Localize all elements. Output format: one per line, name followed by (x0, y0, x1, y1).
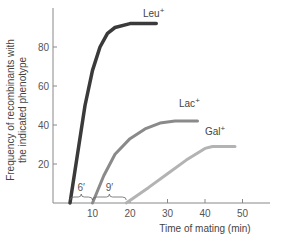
svg-text:Frequency of recombinants with: Frequency of recombinants with (5, 39, 16, 181)
series-label-gal: Gal+ (205, 124, 226, 137)
series-lines (70, 24, 235, 203)
x-axis-label: Time of mating (min) (159, 223, 250, 234)
x-tick-label: 10 (87, 208, 99, 219)
x-ticks: 1020304050 (87, 199, 249, 219)
y-ticks: 20406080 (38, 42, 57, 170)
y-tick-label: 80 (38, 42, 50, 53)
x-tick-label: 50 (237, 208, 249, 219)
series-label-lac: Lac+ (179, 96, 200, 109)
y-tick-label: 20 (38, 159, 50, 170)
series-line-leu (70, 24, 156, 203)
svg-text:the indicated phenotype: the indicated phenotype (17, 56, 28, 163)
line-chart: 20406080 1020304050 6′9′ Leu+Lac+Gal+ Ti… (0, 0, 289, 239)
x-tick-label: 30 (162, 208, 174, 219)
brace-annotation (93, 194, 127, 200)
brace-annotation (70, 194, 93, 200)
series-line-gal (126, 146, 235, 203)
series-labels: Leu+Lac+Gal+ (143, 6, 226, 137)
interval-label: 6′ (78, 182, 86, 193)
x-tick-label: 40 (199, 208, 211, 219)
y-tick-label: 60 (38, 81, 50, 92)
interval-label: 9′ (106, 182, 114, 193)
x-tick-label: 20 (124, 208, 136, 219)
series-label-leu: Leu+ (143, 6, 165, 19)
y-tick-label: 40 (38, 120, 50, 131)
y-axis-label: Frequency of recombinants with the indic… (5, 39, 28, 181)
